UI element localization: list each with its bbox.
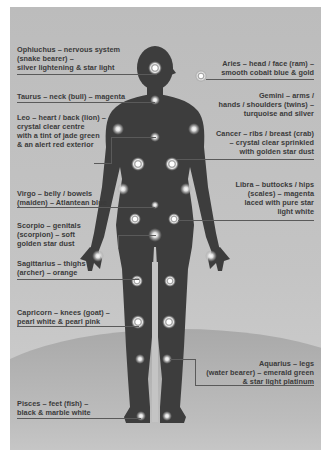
label-taurus: Taurus – neck (bull) – magenta [17, 92, 125, 101]
leg-gap [152, 262, 158, 422]
left-elbow-glow-icon [117, 183, 129, 195]
label-leo: Leo – heart / back (lion) – crystal clea… [17, 113, 106, 149]
leader-line-taurus [17, 102, 155, 103]
right-hand-glow-icon [205, 250, 217, 262]
label-libra: Libra – buttocks / hips (scales) – magen… [235, 180, 314, 216]
leader-vline-scorpio [118, 235, 119, 249]
leader-line-pisces [17, 418, 141, 419]
label-aries: Aries – head / face (ram) – smooth cobal… [221, 59, 314, 77]
leader-line-aquarius-top [170, 359, 196, 360]
left-foot-glow-icon [136, 411, 146, 421]
right-thigh-glow-icon [164, 275, 176, 287]
leader-line-cancer [176, 159, 314, 160]
leader-vline-leo [111, 137, 112, 163]
label-capricorn: Capricorn – knees (goat) – pearl white &… [17, 308, 110, 326]
head-glow-icon [148, 61, 162, 75]
label-gemini: Gemini – arms / hands / shoulders (twins… [219, 91, 314, 118]
leader-line-sagittarius [17, 279, 139, 280]
leader-line-leo [111, 137, 156, 138]
leader-line-aquarius [195, 385, 314, 386]
left-shoulder-glow-icon [112, 123, 124, 135]
leader-line-leo-bottom [94, 163, 112, 164]
left-shin-glow-icon [135, 354, 145, 364]
label-virgo: Virgo – belly / bowels (maiden) – Atlant… [17, 189, 107, 207]
label-scorpio: Scorpio – genitals (scorpion) – soft gol… [17, 221, 81, 248]
neck-glow-icon [150, 95, 160, 105]
diagram-panel: Ophiuchus – nervous system (snake bearer… [10, 7, 321, 450]
leader-line-scorpio [118, 235, 156, 236]
leader-line-aries [206, 79, 314, 80]
right-foot-glow-icon [162, 411, 172, 421]
aries-glow-icon [195, 70, 207, 82]
left-hip-glow-icon [129, 213, 141, 225]
leader-line-ophiuchus [17, 74, 157, 75]
label-aquarius: Aquarius – legs (water bearer) – emerald… [206, 359, 314, 386]
label-cancer: Cancer – ribs / breast (crab) – crystal … [216, 129, 314, 156]
left-breast-glow-icon [131, 157, 145, 171]
right-hip-glow-icon [168, 213, 180, 225]
leader-line-libra [178, 220, 314, 221]
leader-vline-aquarius [195, 359, 196, 385]
label-sagittarius: Sagittarius – thighs (archer) – orange [17, 259, 86, 277]
right-shoulder-glow-icon [188, 123, 200, 135]
label-pisces: Pisces – feet (fish) – black & marble wh… [17, 399, 91, 417]
right-elbow-glow-icon [180, 183, 192, 195]
left-thigh-glow-icon [131, 275, 143, 287]
leader-line-capricorn [17, 326, 139, 327]
left-hand-glow-icon [92, 250, 104, 262]
label-ophiuchus: Ophiuchus – nervous system (snake bearer… [17, 45, 120, 72]
right-knee-glow-icon [162, 315, 176, 329]
leader-line-virgo [17, 207, 155, 208]
